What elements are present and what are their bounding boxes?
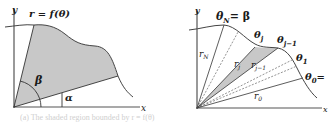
figure-caption: (a) The shaded region bounded by r = f(θ…: [20, 113, 160, 123]
x-axis-label: x: [141, 103, 146, 113]
y-axis-label: y: [11, 5, 18, 15]
y-axis-label: y: [194, 5, 201, 15]
x-axis-label: x: [323, 105, 328, 114]
r-0-label: r0: [254, 91, 262, 102]
theta-j-label: θj: [254, 29, 264, 43]
left-panel: y x r = f(θ) β α: [5, 5, 146, 113]
ray-dashed-1: [197, 32, 238, 108]
right-panel: y x θN= β θj θj−1 θ1 θ0= rN rj rj−1 r0: [189, 5, 328, 114]
ray-j-minus-1: [197, 48, 278, 108]
alpha-label: α: [65, 92, 73, 103]
r-N-label: rN: [199, 49, 209, 60]
curve-label: r = f(θ): [29, 8, 70, 19]
theta-N-label: θN= β: [216, 10, 250, 25]
polar-area-figure: y x r = f(θ) β α y x θN= β θj θj−1 θ1: [0, 0, 328, 124]
ray-1: [197, 66, 297, 108]
beta-label: β: [34, 74, 43, 87]
theta-0-label: θ0=: [305, 71, 325, 85]
theta-j-minus-1-label: θj−1: [277, 34, 297, 48]
theta-1-label: θ1: [296, 52, 308, 66]
